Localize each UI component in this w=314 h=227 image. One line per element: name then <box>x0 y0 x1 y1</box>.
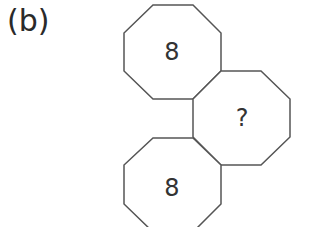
octagon-diagram: 8 ? 8 <box>0 0 314 227</box>
octagon-middle-value: ? <box>236 104 249 132</box>
octagon-middle: ? <box>193 71 290 165</box>
octagon-top-value: 8 <box>164 38 179 66</box>
octagon-bottom-value: 8 <box>164 174 179 202</box>
octagon-bottom: 8 <box>124 138 221 227</box>
